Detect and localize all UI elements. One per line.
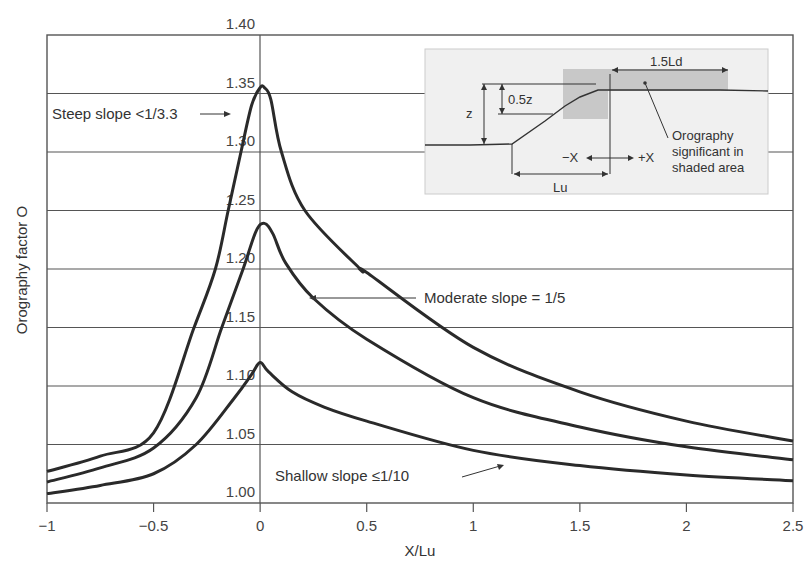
steep-arrowhead-icon [224,111,231,117]
y-tick-label: 1.30 [226,132,255,149]
y-tick-label: 1.00 [226,483,255,500]
x-tick-label: −1 [38,517,55,534]
x-tick-label: 1.5 [569,517,590,534]
y-tick-label: 1.40 [226,15,255,32]
inset-ld-label: 1.5Ld [650,54,683,69]
steep-slope-label: Steep slope <1/3.3 [52,105,178,122]
inset-z-label: z [466,106,473,121]
inset-note-line1: Orography [672,128,734,143]
y-tick-label: 1.05 [226,425,255,442]
moderate-slope-curve [47,223,793,482]
x-tick-label: 0 [256,517,264,534]
shallow-arrow [462,466,500,477]
orography-chart: 1.001.051.101.151.201.251.301.351.40 −1−… [0,0,812,575]
inset-shaded-slope [563,69,608,119]
inset-note-line3: shaded area [672,160,745,175]
shallow-slope-curve [47,363,793,494]
y-axis-tick-labels: 1.001.051.101.151.201.251.301.351.40 [226,15,255,500]
x-tick-label: 1 [469,517,477,534]
x-tick-label: 0.5 [356,517,377,534]
y-tick-label: 1.20 [226,249,255,266]
y-tick-label: 1.35 [226,74,255,91]
y-axis-label: Orography factor O [13,206,30,334]
inset-half-z-label: 0.5z [508,92,533,107]
moderate-slope-label: Moderate slope = 1/5 [424,289,565,306]
inset-diagram: z 0.5z Lu −X +X 1.5Ld Orography signific… [425,49,768,195]
inset-lu-label: Lu [553,180,567,195]
inset-plus-x-label: +X [638,150,655,165]
inset-minus-x-label: −X [562,150,579,165]
shallow-slope-label: Shallow slope ≤1/10 [275,467,409,484]
shallow-arrowhead-icon [497,464,504,470]
x-tick-label: 2 [682,517,690,534]
x-axis-ticks: −1−0.500.511.522.5 [38,503,803,534]
y-tick-label: 1.15 [226,308,255,325]
x-axis-label: X/Lu [405,542,436,559]
x-tick-label: −0.5 [139,517,169,534]
inset-note-line2: significant in [672,144,744,159]
x-tick-label: 2.5 [783,517,804,534]
